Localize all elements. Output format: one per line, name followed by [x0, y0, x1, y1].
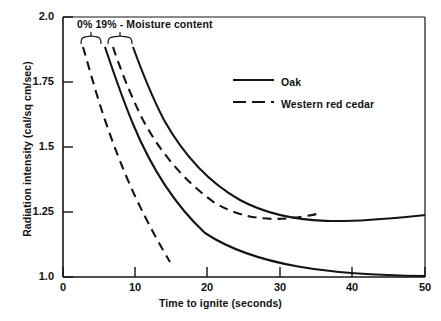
curve-oak-0pct	[105, 47, 425, 276]
x-tick-label-20: 20	[187, 281, 227, 293]
moisture-brace-19pct	[108, 32, 132, 44]
chart-figure: Radiation intensity (cal/sq cm/sec) Time…	[0, 0, 441, 321]
chart-plot-area	[0, 0, 441, 321]
x-tick-label-40: 40	[332, 281, 372, 293]
legend-label-western-red-cedar: Western red cedar	[281, 98, 374, 110]
y-tick-label-2-0: 2.0	[10, 10, 54, 22]
y-tick-label-1-25: 1.25	[10, 205, 54, 217]
legend-label-oak: Oak	[281, 76, 301, 88]
curve-western-red-cedar-19pct	[113, 47, 322, 219]
curve-oak-19pct	[133, 47, 425, 221]
x-tick-label-30: 30	[260, 281, 300, 293]
x-tick-label-10: 10	[115, 281, 155, 293]
y-tick-label-1-75: 1.75	[10, 75, 54, 87]
axis-frame	[63, 17, 425, 277]
legend	[233, 80, 274, 102]
moisture-content-annotation: 0% 19% - Moisture content	[77, 18, 213, 30]
series-curves	[83, 47, 425, 276]
moisture-brace-0pct	[81, 32, 101, 44]
x-axis-title: Time to ignite (seconds)	[0, 297, 441, 309]
x-tick-label-0: 0	[43, 281, 83, 293]
y-axis-ticks	[63, 17, 73, 277]
y-tick-label-1-5: 1.5	[10, 140, 54, 152]
x-axis-ticks	[63, 267, 425, 277]
curve-western-red-cedar-0pct	[83, 47, 170, 262]
x-tick-label-50: 50	[405, 281, 441, 293]
